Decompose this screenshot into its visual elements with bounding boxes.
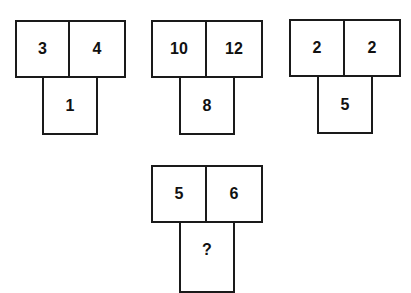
top-left-box: 10 [151,20,207,78]
bottom-box: 8 [179,78,235,135]
top-left-box: 5 [151,165,207,223]
top-left-box: 2 [289,19,345,77]
top-right-box: 2 [345,19,401,77]
question-box: ? [179,223,235,293]
bottom-box: 5 [317,77,373,134]
top-right-box: 12 [207,20,263,78]
bottom-box: 1 [42,78,98,135]
top-right-box: 6 [207,165,263,223]
top-left-box: 3 [15,20,70,78]
top-right-box: 4 [70,20,126,78]
